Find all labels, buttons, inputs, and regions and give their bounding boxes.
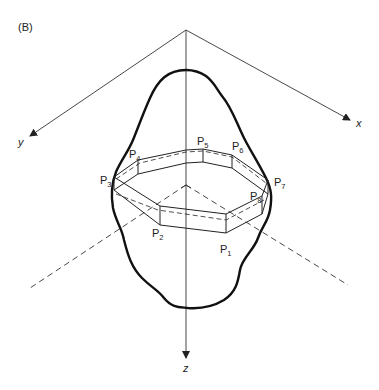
point-label-p2: P2: [152, 227, 164, 242]
x-axis-label: x: [355, 117, 362, 129]
band-top-front: [114, 177, 268, 214]
point-label-p1: P1: [220, 243, 232, 258]
dashed-x-projection: [186, 185, 348, 285]
point-label-p5: P5: [197, 135, 209, 150]
point-label-p3: P3: [100, 174, 112, 189]
point-label-p7: P7: [274, 176, 286, 191]
y-axis: [30, 30, 186, 136]
dashed-projection-lines: [30, 185, 348, 288]
band-bottom-front: [114, 190, 268, 233]
point-label-p8: P8: [250, 190, 262, 205]
point-label-p4: P4: [129, 148, 141, 163]
y-axis-label: y: [17, 136, 25, 148]
diagram-canvas: y x z P1 P2 P3 P4 P5 P6 P7 P8: [0, 0, 379, 390]
z-axis-label: z: [182, 362, 189, 374]
x-axis: [186, 30, 350, 120]
point-label-p6: P6: [232, 140, 244, 155]
band-inner-dashed: [116, 194, 264, 220]
body-outline: [112, 70, 271, 308]
